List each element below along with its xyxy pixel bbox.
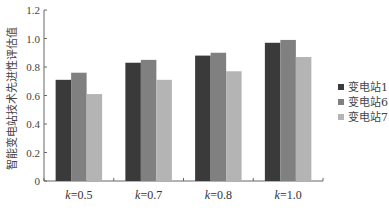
x-tick-label: k=0.8 bbox=[205, 188, 232, 202]
bar-变电站6-k=1.0 bbox=[280, 40, 296, 181]
bar-chart: 00.20.40.60.81.01.2 k=0.5k=0.7k=0.8k=1.0… bbox=[0, 0, 389, 211]
x-tick-label: k=0.7 bbox=[135, 188, 162, 202]
y-tick-label: 0.6 bbox=[26, 90, 40, 102]
y-tick-label: 1.2 bbox=[26, 4, 40, 16]
legend-label: 变电站1 bbox=[348, 80, 388, 94]
x-tick-label: k=0.5 bbox=[65, 188, 92, 202]
bar-变电站1-k=0.5 bbox=[56, 80, 72, 181]
x-axis: k=0.5k=0.7k=0.8k=1.0 bbox=[44, 178, 323, 202]
legend-label: 变电站6 bbox=[348, 95, 388, 109]
y-tick-label: 0.8 bbox=[26, 61, 40, 73]
bar-变电站7-k=0.8 bbox=[226, 71, 242, 181]
y-axis: 00.20.40.60.81.01.2 bbox=[26, 4, 47, 187]
legend-swatch bbox=[338, 84, 344, 90]
legend-label: 变电站7 bbox=[348, 110, 388, 124]
bar-变电站1-k=1.0 bbox=[265, 43, 281, 181]
bar-变电站6-k=0.7 bbox=[141, 60, 157, 181]
bar-变电站1-k=0.8 bbox=[195, 56, 211, 181]
y-axis-label: 智能变电站技术先进性评估值 bbox=[5, 27, 19, 170]
y-tick-label: 0.2 bbox=[26, 147, 40, 159]
y-tick-label: 0.4 bbox=[26, 118, 40, 130]
bar-变电站7-k=0.5 bbox=[87, 94, 103, 181]
bar-变电站1-k=0.7 bbox=[125, 63, 141, 181]
bar-变电站7-k=0.7 bbox=[156, 80, 172, 181]
legend-swatch bbox=[338, 99, 344, 105]
y-tick-label: 0 bbox=[35, 175, 41, 187]
x-tick-label: k=1.0 bbox=[275, 188, 302, 202]
bar-变电站6-k=0.5 bbox=[71, 73, 87, 181]
bar-变电站7-k=1.0 bbox=[296, 57, 312, 181]
bar-变电站6-k=0.8 bbox=[211, 53, 227, 181]
legend: 变电站1变电站6变电站7 bbox=[338, 80, 388, 124]
bars bbox=[56, 40, 312, 181]
y-tick-label: 1.0 bbox=[26, 33, 40, 45]
legend-swatch bbox=[338, 114, 344, 120]
